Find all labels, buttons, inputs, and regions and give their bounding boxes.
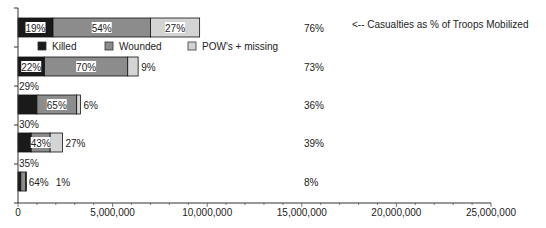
percent-label: 43% [31, 138, 51, 149]
percent-label: 70% [76, 62, 96, 73]
percent-label: 35% [19, 158, 39, 169]
bar-segment-pow-s-missing [50, 133, 62, 152]
casualty-rate-label: 8% [304, 177, 319, 188]
annotation-text: <-- Casualties as % of Troops Mobilized [352, 19, 528, 30]
legend-swatch [188, 42, 196, 50]
percent-label: 6% [83, 100, 98, 111]
bar-segment-killed [18, 95, 37, 114]
percent-label: 1% [56, 177, 71, 188]
percent-label: 22% [21, 62, 41, 73]
x-tick-label: 5,000,000 [90, 207, 135, 218]
percent-label: 64% [29, 177, 49, 188]
casualty-rate-label: 36% [304, 100, 324, 111]
bar-segment-wounded [21, 172, 26, 191]
percent-label: 27% [165, 23, 185, 34]
axes: 05,000,00010,000,00015,000,00020,000,000… [14, 8, 516, 218]
casualty-rate-label: 73% [304, 62, 324, 73]
percent-label: 54% [92, 23, 112, 34]
legend-swatch [105, 42, 113, 50]
bar-segment-pow-s-missing [26, 172, 27, 191]
legend: KilledWoundedPOW's + missing [38, 41, 278, 52]
x-tick-label: 15,000,000 [277, 207, 327, 218]
legend-label: Wounded [119, 41, 162, 52]
legend-label: POW's + missing [202, 41, 278, 52]
x-tick-label: 10,000,000 [182, 207, 232, 218]
percent-label: 29% [19, 81, 39, 92]
percent-label: 27% [65, 138, 85, 149]
x-tick-label: 20,000,000 [371, 207, 421, 218]
percent-label: 9% [141, 62, 156, 73]
percent-label: 30% [19, 119, 39, 130]
casualty-rate-label: 39% [304, 138, 324, 149]
stacked-bar-chart: 19%54%27%76%22%70%9%73%29%65%6%36%30%43%… [0, 0, 546, 228]
bar-segment-killed [18, 133, 31, 152]
bar-segment-pow-s-missing [77, 95, 81, 114]
percent-label: 65% [47, 100, 67, 111]
bar-segment-pow-s-missing [128, 57, 138, 76]
x-tick-label: 0 [15, 207, 21, 218]
casualty-rate-label: 76% [304, 23, 324, 34]
legend-label: Killed [52, 41, 76, 52]
percent-label: 19% [25, 23, 45, 34]
legend-swatch [38, 42, 46, 50]
x-tick-label: 25,000,000 [466, 207, 516, 218]
